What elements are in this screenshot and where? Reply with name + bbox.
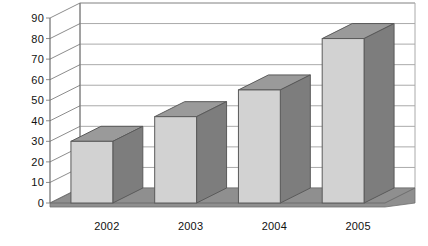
x-axis-tick-label: 2003	[178, 221, 203, 232]
x-axis-tick-label: 2005	[345, 221, 370, 232]
x-axis-tick-label: 2004	[262, 221, 287, 232]
x-axis-tick-label: 2002	[94, 221, 119, 232]
x-axis: 2002200320042005	[0, 0, 428, 246]
bar-chart: 0102030405060708090 2002200320042005	[0, 0, 428, 246]
